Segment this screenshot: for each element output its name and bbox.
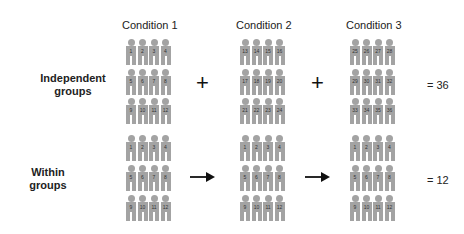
condition-1-title: Condition 1	[122, 19, 178, 31]
person-head-icon	[265, 98, 272, 105]
participant-number: 11	[148, 204, 160, 210]
participant-figure: 14	[252, 39, 262, 65]
within-label-line1: Within	[18, 166, 78, 179]
person-leg-gap	[377, 182, 379, 191]
person-leg-gap	[366, 182, 368, 191]
participant-number: 3	[148, 48, 160, 54]
person-leg-gap	[165, 56, 167, 65]
participant-figure: 4	[385, 135, 395, 161]
participant-number: 4	[274, 144, 286, 150]
participant-figure: 36	[385, 98, 395, 124]
participant-figure: 13	[240, 39, 250, 65]
participant-figure: 7	[149, 165, 159, 191]
person-leg-gap	[354, 212, 356, 221]
person-leg-gap	[377, 56, 379, 65]
person-head-icon	[363, 165, 370, 172]
person-leg-gap	[267, 56, 269, 65]
participant-figure: 9	[240, 195, 250, 221]
person-head-icon	[253, 135, 260, 142]
participant-figure: 31	[373, 69, 383, 95]
person-leg-gap	[256, 115, 258, 124]
person-head-icon	[242, 165, 249, 172]
participant-figure: 32	[385, 69, 395, 95]
person-leg-gap	[165, 212, 167, 221]
person-leg-gap	[267, 182, 269, 191]
participant-figure: 12	[161, 195, 171, 221]
person-leg-gap	[256, 182, 258, 191]
participant-number: 3	[148, 144, 160, 150]
participant-figure: 5	[126, 165, 136, 191]
participant-figure: 11	[149, 98, 159, 124]
participant-figure: 16	[275, 39, 285, 65]
participant-figure: 3	[149, 39, 159, 65]
person-head-icon	[242, 98, 249, 105]
person-leg-gap	[279, 152, 281, 161]
participant-number: 5	[125, 78, 137, 84]
person-head-icon	[162, 69, 169, 76]
participant-number: 7	[148, 78, 160, 84]
person-leg-gap	[244, 182, 246, 191]
person-leg-gap	[165, 115, 167, 124]
participant-number: 10	[137, 107, 149, 113]
person-leg-gap	[165, 86, 167, 95]
person-leg-gap	[267, 115, 269, 124]
participant-number: 8	[160, 174, 172, 180]
participant-figure: 23	[263, 98, 273, 124]
person-leg-gap	[142, 56, 144, 65]
participant-figure: 2	[252, 135, 262, 161]
person-head-icon	[375, 98, 382, 105]
participant-number: 27	[372, 48, 384, 54]
person-head-icon	[151, 165, 158, 172]
person-leg-gap	[244, 56, 246, 65]
participant-figure: 2	[138, 135, 148, 161]
person-leg-gap	[244, 212, 246, 221]
participant-figure: 6	[138, 165, 148, 191]
participant-number: 32	[384, 78, 396, 84]
person-leg-gap	[130, 182, 132, 191]
participant-figure: 1	[126, 39, 136, 65]
person-leg-gap	[142, 115, 144, 124]
person-head-icon	[265, 69, 272, 76]
participant-figure: 3	[373, 135, 383, 161]
participant-number: 8	[160, 78, 172, 84]
person-head-icon	[386, 135, 393, 142]
person-leg-gap	[256, 212, 258, 221]
participant-number: 8	[274, 174, 286, 180]
participant-number: 11	[148, 107, 160, 113]
participant-figure: 8	[161, 69, 171, 95]
person-head-icon	[386, 69, 393, 76]
arrow-icon-2	[305, 171, 331, 183]
person-head-icon	[276, 69, 283, 76]
plus-operator-2: +	[311, 70, 324, 96]
participant-figure: 10	[252, 195, 262, 221]
participant-figure: 1	[126, 135, 136, 161]
person-leg-gap	[267, 212, 269, 221]
person-leg-gap	[377, 115, 379, 124]
participant-figure: 8	[385, 165, 395, 191]
person-head-icon	[363, 135, 370, 142]
person-leg-gap	[153, 182, 155, 191]
participant-figure: 33	[350, 98, 360, 124]
person-leg-gap	[354, 115, 356, 124]
participant-number: 10	[137, 204, 149, 210]
participant-number: 33	[349, 107, 361, 113]
person-leg-gap	[279, 115, 281, 124]
participant-number: 24	[274, 107, 286, 113]
participant-figure: 26	[362, 39, 372, 65]
person-leg-gap	[130, 86, 132, 95]
participant-figure: 8	[275, 165, 285, 191]
participant-figure: 9	[126, 98, 136, 124]
participant-number: 1	[239, 144, 251, 150]
person-head-icon	[276, 165, 283, 172]
person-head-icon	[363, 69, 370, 76]
independent-groups-label: Independent groups	[38, 72, 108, 98]
person-head-icon	[128, 98, 135, 105]
participant-figure: 5	[126, 69, 136, 95]
independent-label-line2: groups	[38, 85, 108, 98]
participant-number: 9	[125, 204, 137, 210]
person-head-icon	[242, 69, 249, 76]
person-leg-gap	[279, 86, 281, 95]
participant-number: 10	[361, 204, 373, 210]
person-head-icon	[386, 195, 393, 202]
participant-figure: 12	[385, 195, 395, 221]
